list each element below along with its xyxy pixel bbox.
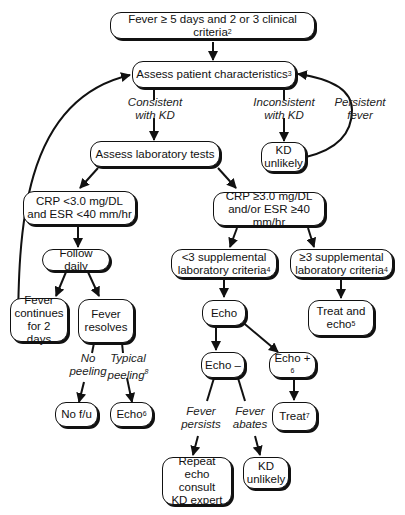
node-treat-and-echo: Treat and echo5	[308, 300, 374, 336]
label-line: with KD	[120, 109, 190, 122]
label-persistent-fever: Persistent fever	[328, 96, 392, 122]
label-fever-abates: Fever abates	[229, 405, 271, 431]
node-text: Repeat echo	[166, 455, 228, 481]
label-line: with KD	[248, 109, 320, 122]
node-text: Assess patient characteristics	[136, 68, 287, 80]
label-line: Persistent	[328, 96, 392, 109]
label-line: Fever	[178, 405, 224, 418]
node-text: echo	[327, 318, 352, 330]
label-line: peeling	[68, 365, 108, 378]
label-line: Fever	[229, 405, 271, 418]
node-text: CRP ≥3.0 mg/DL	[226, 190, 313, 203]
footnote-ref: 6	[143, 410, 147, 417]
footnote-ref: 2	[228, 28, 232, 35]
footnote-ref: 4	[266, 266, 270, 273]
label-inconsistent-with-kd: Inconsistent with KD	[248, 96, 320, 122]
node-text: unlikely	[247, 473, 285, 486]
node-treat: Treat7	[272, 402, 317, 431]
node-echo-footnote-6: Echo6	[110, 402, 153, 427]
node-text: Echo +	[274, 352, 310, 364]
node-fever-5-days-criteria: Fever ≥ 5 days and 2 or 3 clinical crite…	[110, 12, 315, 39]
node-text: Treat	[279, 410, 305, 422]
label-consistent-with-kd: Consistent with KD	[120, 96, 190, 122]
node-text: Echo –	[205, 359, 241, 372]
footnote-ref: 8	[145, 368, 149, 375]
footnote-ref: 4	[384, 266, 388, 273]
node-text: Echo	[116, 408, 142, 420]
node-text: KD	[258, 460, 274, 473]
node-text: <3 supplemental	[182, 251, 267, 264]
node-kd-unlikely-bottom: KD unlikely	[243, 457, 289, 489]
label-line: fever	[328, 109, 392, 122]
node-text: and ESR <40 mm/hr	[27, 208, 132, 221]
footnote-ref: 7	[306, 412, 310, 419]
node-text: laboratory criteria	[178, 264, 267, 276]
label-line: Consistent	[120, 96, 190, 109]
node-text: continues	[14, 307, 63, 320]
node-echo-positive: Echo + 6	[269, 352, 316, 378]
footnote-ref: 5	[352, 320, 356, 327]
node-text: KD expert	[171, 494, 222, 507]
label-line: Inconsistent	[248, 96, 320, 109]
label-line: persists	[178, 418, 224, 431]
label-fever-persists: Fever persists	[178, 405, 224, 431]
label-line: abates	[229, 418, 271, 431]
node-text: resolves	[85, 321, 128, 334]
label-line: Typical	[106, 352, 150, 365]
node-text: Fever	[91, 308, 120, 321]
label-no-peeling: No peeling	[68, 352, 108, 378]
node-assess-patient-characteristics: Assess patient characteristics3	[132, 61, 296, 88]
node-lt3-supplemental: <3 supplemental laboratory criteria4	[171, 249, 277, 278]
node-text: Echo	[211, 307, 237, 320]
node-text: Fever ≥ 5 days and 2 or 3 clinical crite…	[128, 13, 297, 38]
node-text: CRP <3.0 mg/DL	[36, 195, 123, 208]
node-crp-high: CRP ≥3.0 mg/DL and/or ESR ≥40 mm/hr	[213, 192, 325, 226]
footnote-ref: 3	[288, 70, 292, 77]
label-line: No	[68, 352, 108, 365]
label-typical-peeling: Typical peeling8	[106, 352, 150, 382]
node-text: consult	[179, 481, 215, 494]
node-text: Assess laboratory tests	[96, 148, 215, 161]
node-echo: Echo	[202, 300, 246, 326]
node-assess-laboratory-tests: Assess laboratory tests	[90, 141, 220, 167]
node-no-follow-up: No f/u	[55, 402, 98, 427]
node-text: KD	[276, 144, 292, 157]
node-text: Treat and	[317, 305, 366, 318]
node-text: laboratory criteria	[295, 264, 384, 276]
label-line: peeling	[108, 369, 145, 381]
node-fever-continues: Fever continues for 2 days	[10, 298, 68, 342]
node-text: No f/u	[61, 408, 92, 421]
node-ge3-supplemental: ≥3 supplemental laboratory criteria4	[290, 249, 393, 278]
node-text: Follow daily	[46, 247, 106, 273]
node-text: and/or ESR ≥40 mm/hr	[217, 203, 321, 229]
node-repeat-echo-consult: Repeat echo consult KD expert	[162, 457, 232, 505]
node-text: unlikely	[264, 157, 302, 170]
node-text: ≥3 supplemental	[299, 251, 383, 264]
node-text: for 2 days	[14, 320, 64, 346]
node-text: Fever	[24, 294, 53, 307]
node-follow-daily: Follow daily	[42, 249, 110, 271]
footnote-ref: 6	[291, 367, 295, 374]
node-kd-unlikely-top: KD unlikely	[261, 142, 306, 172]
node-fever-resolves: Fever resolves	[78, 299, 134, 343]
node-echo-negative: Echo –	[201, 352, 245, 378]
node-crp-low: CRP <3.0 mg/DL and ESR <40 mm/hr	[23, 191, 136, 225]
